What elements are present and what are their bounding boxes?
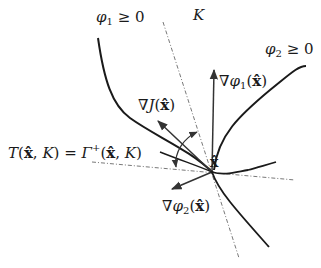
phi-symbol: φ	[265, 40, 276, 58]
xhat-symbol: x̂	[24, 144, 33, 162]
paren: )	[169, 96, 175, 114]
boundary-line-K	[163, 22, 239, 258]
nabla-symbol: ∇	[219, 72, 229, 90]
gamma-symbol: Γ	[82, 144, 92, 162]
nabla-symbol: ∇	[162, 197, 172, 215]
xhat-symbol: x̂	[195, 197, 204, 215]
xhat-symbol: x̂	[106, 144, 115, 162]
label-grad-J: ∇J(x̂)	[138, 98, 175, 113]
T-symbol: T	[8, 144, 18, 162]
relation: ≥ 0	[282, 40, 314, 58]
K-symbol: K	[125, 144, 136, 162]
arrow-grad-J	[158, 121, 212, 172]
curve-lower-right	[212, 162, 276, 174]
curve-left-lower	[160, 152, 212, 172]
arrow-grad-phi2	[172, 172, 212, 189]
phi-symbol: φ	[96, 8, 107, 26]
equals: =	[59, 144, 81, 162]
label-phi2-region: φ2 ≥ 0	[265, 42, 314, 59]
nabla-symbol: ∇	[138, 96, 148, 114]
label-tangent-cone: T(x̂, K) = Γ+(x̂, K)	[8, 143, 142, 161]
label-set-K: K	[193, 8, 204, 23]
relation: ≥ 0	[113, 8, 145, 26]
curve-lower-down	[212, 172, 269, 247]
label-phi1-region: φ1 ≥ 0	[96, 10, 145, 27]
paren: )	[136, 144, 142, 162]
phi-symbol: φ	[172, 197, 183, 215]
label-grad-phi2: ∇φ2(x̂)	[162, 199, 210, 216]
xhat-symbol: x̂	[252, 72, 261, 90]
comma: ,	[33, 144, 43, 162]
point-xhat	[211, 171, 214, 174]
comma: ,	[115, 144, 125, 162]
xhat-symbol: x̂	[210, 154, 218, 170]
paren: )	[204, 197, 210, 215]
K-symbol: K	[42, 144, 53, 162]
phi-symbol: φ	[229, 72, 240, 90]
paren: )	[261, 72, 267, 90]
label-point-xhat: x̂	[210, 155, 218, 169]
xhat-symbol: x̂	[160, 96, 169, 114]
label-grad-phi1: ∇φ1(x̂)	[219, 74, 267, 91]
set-K-symbol: K	[193, 6, 204, 24]
